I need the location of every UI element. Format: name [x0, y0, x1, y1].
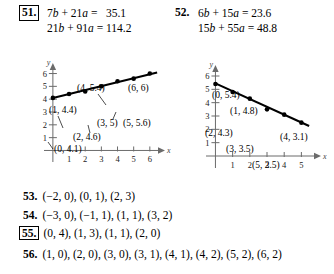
x-tick-label: 6 [148, 154, 152, 164]
problem-number-51: 51. [19, 5, 39, 21]
x-tick-label: 4 [115, 154, 120, 164]
problem-51-equation-2: 21b + 91a = 114.2 [47, 22, 131, 34]
data-point-label: (4, 5.4) [77, 83, 105, 94]
problem-number-53: 53. [23, 190, 37, 202]
scatter-plot-problem-52: xy12345123456(0, 5.4)(1, 4.8)(2, 4.3)(3,… [186, 48, 334, 198]
list-item: 55.(0, 4), (1, 3), (1, 1), (2, 0) [19, 227, 160, 239]
y-tick-label: 3 [43, 107, 47, 117]
data-point [265, 107, 270, 112]
problem-number-54: 54. [23, 209, 37, 221]
worksheet-page: 51. 7b + 21a = 35.1 21b + 91a = 114.2 52… [0, 0, 334, 274]
data-point [115, 79, 120, 84]
y-tick-label: 5 [43, 81, 47, 91]
data-point [148, 71, 153, 76]
y-axis-label: y [46, 58, 51, 67]
data-point-label: (1, 4.4) [49, 105, 77, 116]
problem-51-equation-1: 7b + 21a = 35.1 [47, 7, 126, 19]
problem-number-56: 56. [23, 248, 37, 260]
data-point-label: (4, 3.1) [280, 132, 308, 143]
data-point-label: (0, 5.4) [212, 90, 240, 101]
list-item: 56.(1, 0), (2, 0), (3, 0), (3, 1), (4, 1… [23, 248, 282, 260]
y-tick-label: 5 [205, 84, 209, 94]
data-point-label: (3, 5) [97, 118, 118, 129]
x-tick-label: 5 [132, 154, 136, 164]
y-tick-label: 1 [205, 138, 209, 148]
x-tick-label: 5 [299, 160, 303, 170]
problem-54-values: (−3, 0), (−1, 1), (1, 1), (3, 2) [42, 209, 172, 221]
x-tick-label: 4 [282, 160, 287, 170]
data-point-label: (6, 6) [128, 83, 149, 94]
problem-52-equation-2: 15b + 55a = 48.8 [198, 22, 277, 34]
data-point [67, 92, 72, 97]
problem-55-values: (0, 4), (1, 3), (1, 1), (2, 0) [43, 227, 160, 239]
y-tick-label: 4 [205, 98, 210, 108]
y-tick-label: 4 [43, 94, 48, 104]
data-point-label: (3, 3.5) [226, 144, 254, 155]
graph2-canvas: xy12345123456(0, 5.4)(1, 4.8)(2, 4.3)(3,… [186, 48, 334, 198]
x-tick-label: 3 [99, 154, 103, 164]
data-point [248, 96, 253, 101]
list-item: 54.(−3, 0), (−1, 1), (1, 1), (3, 2) [23, 209, 172, 221]
data-point [299, 120, 304, 125]
y-axis-label: y [208, 60, 213, 69]
y-tick-label: 2 [43, 120, 47, 130]
y-tick-label: 6 [205, 71, 209, 81]
data-point-label: (2, 4.6) [73, 132, 101, 143]
problem-56-values: (1, 0), (2, 0), (3, 0), (3, 1), (4, 1), … [42, 248, 282, 260]
y-tick-label: 1 [43, 133, 47, 143]
y-tick-label: 3 [205, 111, 209, 121]
scatter-plot-problem-51: xy123456123456(0, 4.1)(1, 4.4)(2, 4.6)(3… [28, 48, 178, 188]
data-point-label: (0, 4.1) [54, 144, 82, 155]
data-point [282, 112, 287, 117]
problem-number-55: 55. [19, 226, 39, 240]
x-tick-label: 2 [83, 154, 87, 164]
y-tick-label: 6 [43, 69, 47, 79]
problem-52-equation-1: 6b + 15a = 23.6 [198, 7, 271, 19]
data-point-label: (5, 2.5) [252, 160, 280, 171]
list-item: 53.(−2, 0), (0, 1), (2, 3) [23, 190, 135, 202]
x-axis-label: x [322, 152, 327, 161]
data-point-label: (5, 5.6) [123, 118, 151, 129]
x-tick-label: 1 [67, 154, 71, 164]
problem-number-52: 52. [175, 7, 189, 19]
data-point-label: (1, 4.8) [230, 106, 258, 117]
data-point [131, 76, 136, 81]
x-axis-label: x [166, 146, 171, 155]
data-point [213, 82, 218, 87]
x-tick-label: 1 [231, 160, 235, 170]
data-point [51, 96, 56, 101]
problem-53-values: (−2, 0), (0, 1), (2, 3) [42, 190, 135, 202]
data-point-label: (2, 4.3) [205, 128, 233, 139]
graph1-canvas: xy123456123456(0, 4.1)(1, 4.4)(2, 4.6)(3… [28, 48, 178, 188]
